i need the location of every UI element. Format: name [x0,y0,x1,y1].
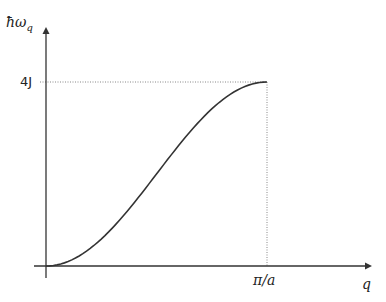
y-axis-arrow-icon [43,27,50,34]
y-axis-label: ħωq [6,14,33,33]
x-axis-label: q [362,276,371,292]
x-axis-arrow-icon [365,263,372,270]
chart-canvas [0,0,386,302]
dispersion-curve [46,82,267,266]
x-tick-pi-over-a: π/a [253,272,275,288]
y-tick-4j: 4J [20,74,32,89]
